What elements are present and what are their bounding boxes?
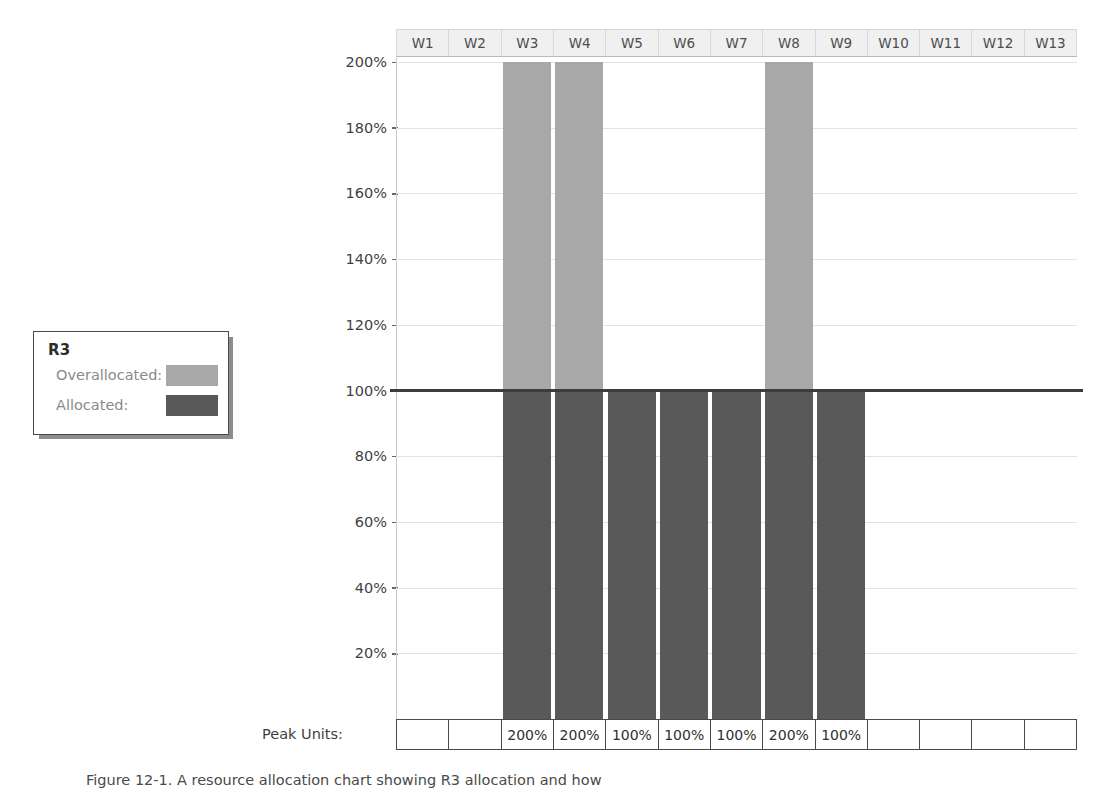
figure-caption: Figure 12-1. A resource allocation chart… — [86, 772, 1046, 791]
resource-allocation-chart: W1W2W3W4W5W6W7W8W9W10W11W12W13 — [396, 29, 1077, 722]
legend-label-allocated: Allocated: — [56, 397, 128, 413]
week-header-cell-w10: W10 — [868, 30, 920, 56]
week-header-cell-w11: W11 — [920, 30, 972, 56]
y-tick-60: 60% — [355, 514, 398, 530]
peak-units-cell-w6: 100% — [659, 720, 711, 749]
bar-overallocated-w8 — [765, 62, 813, 391]
peak-units-cell-w1 — [397, 720, 449, 749]
week-header-cell-w7: W7 — [711, 30, 763, 56]
y-tick-label-140: 140% — [346, 251, 387, 267]
peak-units-cell-w12 — [972, 720, 1024, 749]
legend-box: R3 Overallocated: Allocated: — [33, 331, 229, 435]
peak-units-cell-w13 — [1025, 720, 1077, 749]
y-tick-160: 160% — [346, 185, 398, 201]
peak-units-cell-w4: 200% — [554, 720, 606, 749]
y-tick-label-120: 120% — [346, 317, 387, 333]
bar-allocated-w9 — [817, 391, 865, 720]
peak-units-cell-w10 — [868, 720, 920, 749]
y-tick-label-80: 80% — [355, 448, 387, 464]
legend-swatch-overallocated — [166, 365, 218, 386]
y-tick-180: 180% — [346, 120, 398, 136]
y-tick-120: 120% — [346, 317, 398, 333]
peak-units-row: 200%200%100%100%100%200%100% — [396, 719, 1077, 750]
peak-units-cell-w7: 100% — [711, 720, 763, 749]
week-header-cell-w2: W2 — [449, 30, 501, 56]
bar-allocated-w4 — [555, 391, 603, 720]
plot-area — [396, 62, 1077, 719]
y-tick-label-160: 160% — [346, 185, 387, 201]
week-header-cell-w3: W3 — [502, 30, 554, 56]
peak-units-cell-w3: 200% — [502, 720, 554, 749]
y-tick-label-200: 200% — [346, 54, 387, 70]
bar-allocated-w5 — [608, 391, 656, 720]
week-header-cell-w5: W5 — [606, 30, 658, 56]
bar-allocated-w3 — [503, 391, 551, 720]
week-header-row: W1W2W3W4W5W6W7W8W9W10W11W12W13 — [396, 29, 1077, 57]
week-header-cell-w13: W13 — [1025, 30, 1077, 56]
y-tick-label-100: 100% — [346, 383, 387, 399]
peak-units-cell-w5: 100% — [606, 720, 658, 749]
y-tick-label-40: 40% — [355, 580, 387, 596]
peak-units-label: Peak Units: — [262, 726, 343, 742]
legend-title: R3 — [48, 341, 70, 359]
bar-allocated-w6 — [660, 391, 708, 720]
peak-units-cell-w8: 200% — [763, 720, 815, 749]
legend-swatch-allocated — [166, 395, 218, 416]
y-axis: 200%180%160%140%120%100%80%60%40%20% — [316, 29, 398, 722]
week-header-cell-w1: W1 — [396, 30, 449, 56]
week-header-cell-w8: W8 — [763, 30, 815, 56]
peak-units-cell-w9: 100% — [816, 720, 868, 749]
legend-row-overallocated: Overallocated: — [48, 365, 218, 387]
y-tick-20: 20% — [355, 645, 398, 661]
plot-inner — [396, 62, 1077, 719]
y-tick-80: 80% — [355, 448, 398, 464]
bar-allocated-w7 — [712, 391, 760, 720]
bar-overallocated-w4 — [555, 62, 603, 391]
y-tick-40: 40% — [355, 580, 398, 596]
week-header-cell-w12: W12 — [972, 30, 1024, 56]
y-tick-label-20: 20% — [355, 645, 387, 661]
bar-overallocated-w3 — [503, 62, 551, 391]
week-header-cell-w4: W4 — [554, 30, 606, 56]
y-tick-140: 140% — [346, 251, 398, 267]
peak-units-cell-w11 — [920, 720, 972, 749]
y-tick-200: 200% — [346, 54, 398, 70]
bar-allocated-w8 — [765, 391, 813, 720]
week-header-cell-w9: W9 — [816, 30, 868, 56]
week-header-cell-w6: W6 — [659, 30, 711, 56]
legend-row-allocated: Allocated: — [48, 395, 218, 417]
y-tick-label-180: 180% — [346, 120, 387, 136]
reference-line-100 — [390, 389, 1083, 392]
peak-units-cell-w2 — [449, 720, 501, 749]
legend-label-overallocated: Overallocated: — [56, 367, 162, 383]
y-tick-label-60: 60% — [355, 514, 387, 530]
